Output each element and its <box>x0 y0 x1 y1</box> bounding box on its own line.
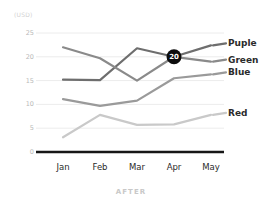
x-tick-label-feb: Feb <box>92 162 107 172</box>
x-tick-label-jan: Jan <box>56 162 69 172</box>
legend-label-green: Green <box>228 55 258 65</box>
legend-line-stub-green <box>213 60 226 62</box>
chart-plot-area: 20 <box>0 0 262 205</box>
annotation-badge-label: 20 <box>169 53 179 61</box>
legend-label-puple: Puple <box>228 38 257 48</box>
legend-line-stub-puple <box>213 43 226 45</box>
x-tick-label-may: May <box>202 162 220 172</box>
legend-line-stub-blue <box>213 72 226 74</box>
x-tick-label-mar: Mar <box>129 162 145 172</box>
annotation-badge: 20 <box>167 49 182 64</box>
legend-label-red: Red <box>228 108 247 118</box>
series-line-red <box>63 115 211 137</box>
chart-caption: AFTER <box>0 188 262 196</box>
series-line-puple <box>63 45 211 80</box>
x-tick-label-apr: Apr <box>167 162 182 172</box>
line-chart: (USD) 0510152025 20 JanFebMarAprMay Pupl… <box>0 0 262 205</box>
legend-line-stub-red <box>213 113 226 115</box>
legend-label-blue: Blue <box>228 67 250 77</box>
